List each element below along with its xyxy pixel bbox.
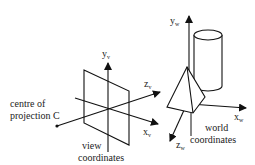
world-y-label: yw bbox=[170, 15, 179, 30]
world-x-label: xw bbox=[234, 111, 243, 126]
view-z-label: zv bbox=[144, 78, 151, 93]
world-z-label: zw bbox=[176, 139, 185, 154]
pyramid bbox=[167, 67, 205, 113]
view-y-label: yv bbox=[102, 48, 110, 63]
centre-of-projection-point bbox=[55, 124, 58, 127]
cylinder bbox=[194, 30, 222, 91]
diagram-canvas: yv zv xv centre of projection C view coo… bbox=[0, 0, 255, 165]
view-caption-line1: view bbox=[82, 140, 101, 151]
world-z-axis bbox=[170, 108, 185, 141]
world-caption-line1: world bbox=[205, 122, 228, 133]
world-caption-line2: coordinates bbox=[190, 134, 236, 145]
view-x-axis bbox=[75, 98, 158, 124]
view-caption-line2: coordinates bbox=[78, 152, 124, 163]
view-x-label: xv bbox=[143, 126, 151, 141]
centre-label-line2: projection C bbox=[10, 110, 60, 121]
centre-label-line1: centre of bbox=[10, 98, 45, 109]
